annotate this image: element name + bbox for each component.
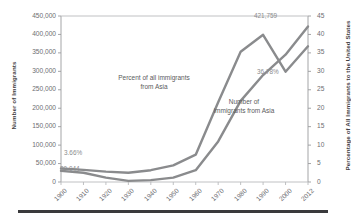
bottom-divider-rule (18, 210, 328, 213)
percent-series-annotation-line1: Percent of all immigrants (104, 74, 204, 83)
y-axis-right-ticks (308, 16, 311, 182)
number-series-annotation: Number of immigrants from Asia (196, 98, 292, 116)
number-series-annotation-line2: immigrants from Asia (196, 107, 292, 116)
y-axis-right-title: Percentage of All Immigrants to the Unit… (344, 21, 351, 171)
data-label-end-number: 421,759 (254, 13, 277, 19)
data-label-start-percent: 3.66% (64, 150, 82, 156)
data-label-start-number: 30,044 (60, 166, 80, 172)
data-label-end-percent: 36.78% (257, 69, 279, 75)
number-series-annotation-line1: Number of (196, 98, 292, 107)
percent-series-annotation-line2: from Asia (104, 83, 204, 92)
percent-series-annotation: Percent of all immigrants from Asia (104, 74, 204, 92)
